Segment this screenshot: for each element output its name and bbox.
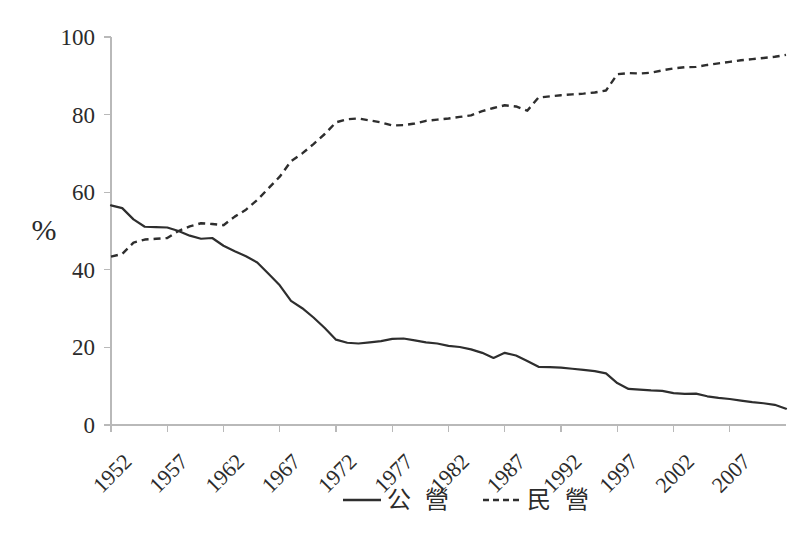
x-tick-label: 1997 [594,449,643,498]
legend-label: 公 營 [387,487,453,513]
y-axis-ticks: 020406080100 [61,25,112,438]
x-tick-label: 2002 [650,449,699,498]
x-tick-label: 1967 [256,449,305,498]
line-chart: 020406080100 195219571962196719721977198… [0,0,808,536]
y-axis-group: 020406080100 [61,25,112,438]
chart-container: 020406080100 195219571962196719721977198… [0,0,808,536]
y-tick-label: 80 [72,103,95,128]
y-tick-label: 60 [72,180,95,205]
x-tick-label: 1987 [481,449,530,498]
y-tick-label: 20 [72,335,95,360]
data-series-group [111,55,786,409]
x-tick-label: 1952 [88,449,137,498]
x-tick-label: 1962 [200,449,249,498]
legend-label: 民 營 [527,487,593,513]
series-line-public [111,205,786,408]
series-line-private [111,55,786,257]
y-axis-title: % [32,213,57,246]
y-tick-label: 0 [84,413,96,438]
x-tick-label: 1972 [313,449,362,498]
y-tick-label: 40 [72,258,95,283]
x-tick-label: 1957 [144,449,193,498]
x-tick-label: 2007 [706,449,755,498]
y-tick-label: 100 [61,25,96,50]
